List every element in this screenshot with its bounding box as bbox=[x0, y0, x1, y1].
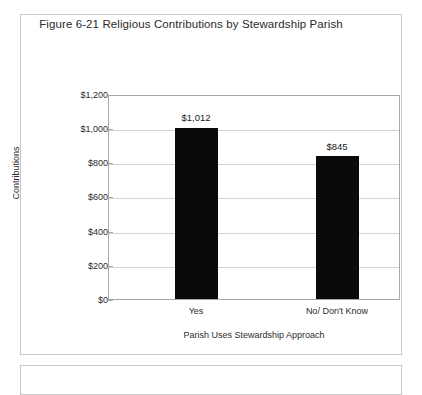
bar-value-label-no-dont-know: $845 bbox=[326, 141, 347, 152]
y-tick-mark bbox=[108, 163, 113, 164]
y-tick-label: $0 bbox=[54, 295, 108, 305]
y-tick-label: $400 bbox=[54, 227, 108, 237]
y-tick-mark bbox=[108, 232, 113, 233]
y-tick-label: $600 bbox=[54, 192, 108, 202]
y-tick-mark bbox=[108, 197, 113, 198]
x-axis-title: Parish Uses Stewardship Approach bbox=[108, 330, 400, 340]
x-category-label-yes: Yes bbox=[189, 306, 204, 316]
y-tick-label: $1,200 bbox=[54, 90, 108, 100]
bar-value-label-yes: $1,012 bbox=[181, 112, 210, 123]
y-tick-mark bbox=[108, 95, 113, 96]
lower-container bbox=[20, 365, 402, 395]
bar-yes bbox=[175, 128, 218, 299]
chart-title: Figure 6-21 Religious Contributions by S… bbox=[30, 16, 352, 32]
bar-no-dont-know bbox=[316, 156, 359, 299]
y-axis-ticks: $1,200 $1,000 $800 $600 $400 $200 $0 bbox=[48, 95, 108, 300]
x-category-label-no-dont-know: No/ Don't Know bbox=[306, 306, 368, 316]
gridline bbox=[109, 130, 399, 131]
y-tick-label: $800 bbox=[54, 158, 108, 168]
plot-area bbox=[108, 95, 400, 300]
y-axis-title: Contributions bbox=[11, 133, 21, 213]
y-tick-label: $1,000 bbox=[54, 124, 108, 134]
y-tick-label: $200 bbox=[54, 261, 108, 271]
y-tick-mark bbox=[108, 266, 113, 267]
y-tick-mark bbox=[108, 300, 113, 301]
y-tick-mark bbox=[108, 129, 113, 130]
